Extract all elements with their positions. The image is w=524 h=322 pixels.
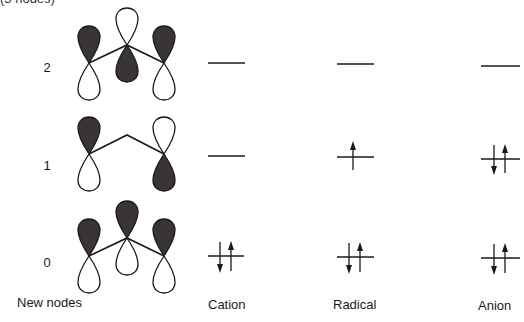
lobe-dark — [153, 26, 175, 63]
electrons — [217, 141, 508, 275]
lobe-white — [116, 238, 138, 275]
radical-level-1-electron — [350, 141, 356, 170]
arrowhead-down-icon — [491, 166, 497, 175]
energy-levels — [208, 63, 520, 258]
lobe-white — [78, 154, 100, 191]
orbital-1-node — [78, 117, 175, 191]
lobe-dark — [116, 201, 138, 238]
arrowhead-down-icon — [217, 264, 223, 273]
x-axis-label-new-nodes: New nodes — [17, 295, 82, 310]
arrowhead-down-icon — [491, 266, 497, 275]
radical-level-0-electrons — [346, 242, 363, 274]
lobe-white — [78, 63, 100, 100]
lobe-white — [153, 117, 175, 154]
arrowhead-down-icon — [346, 265, 352, 274]
lobe-dark — [78, 219, 100, 256]
lobe-dark — [78, 26, 100, 63]
anion-level-0-electrons — [491, 243, 508, 275]
orbital-0-nodes — [78, 201, 175, 293]
column-label-cation: Cation — [208, 297, 246, 312]
lobe-dark — [78, 117, 100, 154]
lobe-dark — [153, 154, 175, 191]
lobe-dark — [116, 45, 138, 82]
column-label-anion: Anion — [478, 298, 511, 313]
lobe-dark — [153, 219, 175, 256]
orbital-diagram-svg — [0, 0, 524, 322]
bond-lines — [89, 135, 164, 154]
arrowhead-up-icon — [228, 241, 234, 250]
column-label-radical: Radical — [333, 297, 376, 312]
allyl-mo-diagram: (3 nodes) 2 1 0 — [0, 0, 524, 322]
arrowhead-up-icon — [357, 242, 363, 251]
lobe-white — [153, 63, 175, 100]
arrowhead-up-icon — [502, 243, 508, 252]
lobe-white — [78, 256, 100, 293]
orbital-2-nodes — [78, 8, 175, 100]
arrowhead-up-icon — [502, 144, 508, 153]
lobe-white — [153, 256, 175, 293]
cation-level-0-electrons — [217, 241, 234, 273]
lobe-white — [116, 8, 138, 45]
arrowhead-up-icon — [350, 141, 356, 150]
